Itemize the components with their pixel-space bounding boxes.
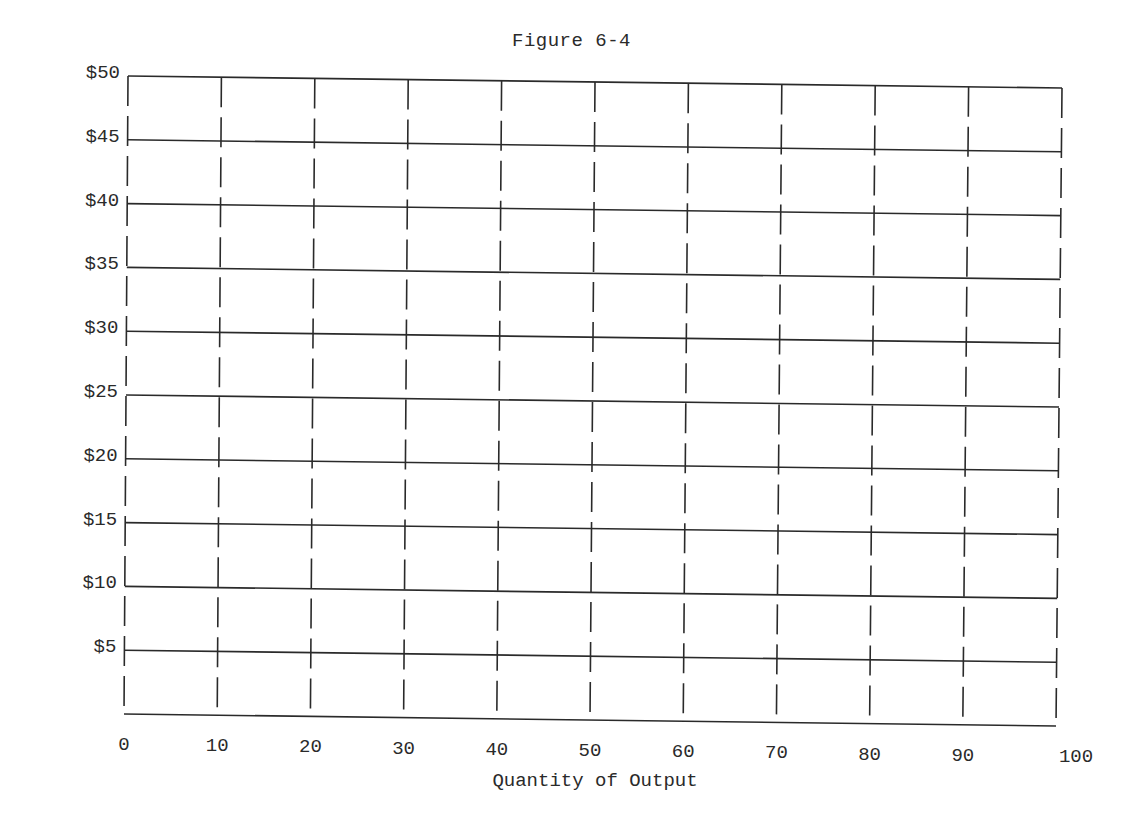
y-tick-label: $5 xyxy=(36,636,116,658)
y-tick-label: $30 xyxy=(38,317,118,339)
y-tick-label: $10 xyxy=(37,572,117,594)
x-tick-label: 100 xyxy=(1046,746,1106,768)
y-tick-label: $45 xyxy=(40,126,120,148)
y-tick-label: $35 xyxy=(39,253,119,275)
y-tick-label: $20 xyxy=(38,445,118,467)
y-tick-label: $15 xyxy=(37,509,117,531)
x-tick-label: 60 xyxy=(653,741,713,763)
x-tick-label: 40 xyxy=(467,739,527,761)
x-tick-label: 90 xyxy=(933,745,993,767)
x-tick-label: 70 xyxy=(746,742,806,764)
x-axis-title: Quantity of Output xyxy=(0,770,1143,792)
y-tick-label: $25 xyxy=(38,381,118,403)
y-tick-label: $50 xyxy=(40,62,120,84)
y-tick-label: $40 xyxy=(39,190,119,212)
x-tick-label: 10 xyxy=(187,735,247,757)
chart-grid xyxy=(0,0,1143,837)
x-tick-label: 20 xyxy=(280,736,340,758)
x-tick-label: 30 xyxy=(374,738,434,760)
x-tick-label: 0 xyxy=(94,734,154,756)
x-tick-label: 80 xyxy=(840,744,900,766)
x-tick-label: 50 xyxy=(560,740,620,762)
